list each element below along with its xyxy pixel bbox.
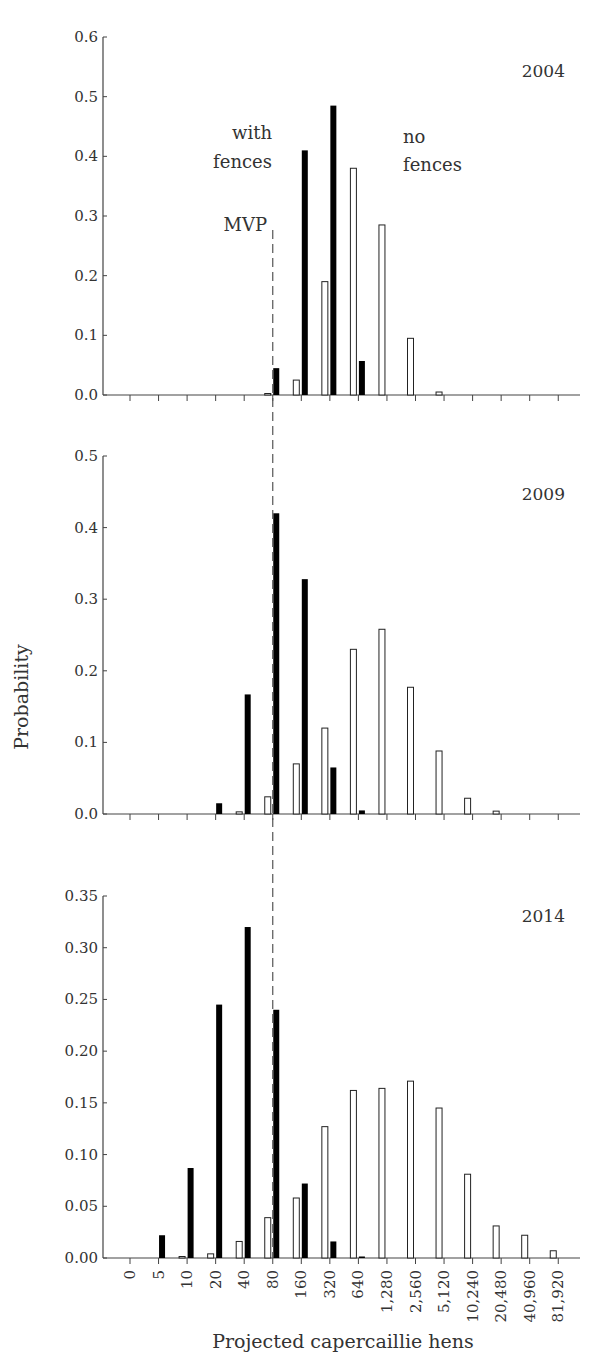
bar-with-fences [359,1257,365,1259]
y-tick-label: 0.5 [74,88,98,106]
y-tick-label: 0.5 [74,447,98,465]
no-fences-label: fences [403,154,462,175]
no-fences-label: no [403,126,425,147]
bar-with-fences [216,803,222,814]
bar-no-fences [436,392,442,395]
bar-no-fences [322,728,328,814]
bar-no-fences [493,811,499,814]
x-tick-label: 20,480 [492,1270,510,1323]
bar-no-fences [265,797,271,814]
bar-with-fences [273,1010,279,1258]
bar-no-fences [465,1174,471,1258]
bar-no-fences [493,1226,499,1258]
bar-with-fences [302,1184,308,1258]
bar-with-fences [188,1168,194,1258]
bar-no-fences [350,168,356,395]
y-tick-label: 0.3 [74,590,98,608]
x-tick-label: 40 [235,1270,253,1289]
bar-no-fences [436,1108,442,1258]
bar-with-fences [302,150,308,395]
bar-no-fences [293,1198,299,1258]
y-tick-label: 0.2 [74,662,98,680]
y-tick-label: 0.0 [74,386,98,404]
panel-year-label: 2004 [522,61,565,81]
y-tick-label: 0.15 [65,1094,98,1112]
x-tick-label: 640 [349,1270,367,1299]
y-tick-label: 0.00 [65,1249,98,1267]
bar-no-fences [550,1251,556,1258]
bar-no-fences [465,798,471,814]
bar-no-fences [522,1235,528,1258]
y-tick-label: 0.30 [65,939,98,957]
bar-no-fences [408,338,414,395]
capercaillie-probability-chart: 0.00.10.20.30.40.50.62004withfencesnofen… [0,0,597,1358]
bar-with-fences [302,579,308,814]
bar-no-fences [408,687,414,814]
y-tick-label: 0.2 [74,267,98,285]
bar-with-fences [159,1235,165,1258]
y-tick-label: 0.3 [74,207,98,225]
bar-no-fences [179,1257,185,1259]
y-tick-label: 0.4 [74,519,98,537]
y-tick-label: 0.1 [74,326,98,344]
bar-with-fences [359,810,365,814]
bar-with-fences [245,694,251,814]
bar-with-fences [330,106,336,395]
y-tick-label: 0.05 [65,1197,98,1215]
y-tick-label: 0.20 [65,1042,98,1060]
y-tick-label: 0.4 [74,147,98,165]
x-tick-label: 81,920 [549,1270,567,1323]
bar-no-fences [408,1081,414,1258]
panel-year-label: 2009 [522,484,565,504]
bar-with-fences [245,927,251,1258]
y-tick-label: 0.10 [65,1146,98,1164]
bar-no-fences [265,1218,271,1258]
x-tick-label: 320 [321,1270,339,1299]
y-axis-title: Probability [10,644,32,750]
y-tick-label: 0.1 [74,733,98,751]
bar-no-fences [322,1127,328,1258]
y-tick-label: 0.35 [65,887,98,905]
y-tick-label: 0.6 [74,28,98,46]
panel-2014: 0.000.050.100.150.200.250.300.352014 [65,887,580,1267]
panel-2004: 0.00.10.20.30.40.50.62004withfencesnofen… [74,28,580,404]
x-tick-label: 10,240 [464,1270,482,1323]
x-tick-label: 5 [150,1270,168,1280]
bar-with-fences [330,1241,336,1258]
mvp-label: MVP [223,214,267,235]
panel-2009: 0.00.10.20.30.40.52009 [74,447,580,823]
bar-no-fences [293,764,299,814]
bar-no-fences [208,1254,214,1258]
panel-year-label: 2014 [522,906,565,926]
x-tick-label: 20 [207,1270,225,1289]
x-tick-label: 80 [264,1270,282,1289]
bar-no-fences [379,225,385,395]
x-tick-label: 2,560 [407,1270,425,1313]
bar-no-fences [236,812,242,814]
bar-no-fences [379,629,385,814]
with-fences-label: fences [213,151,272,172]
y-tick-label: 0.0 [74,805,98,823]
bar-no-fences [293,380,299,395]
bar-with-fences [216,1005,222,1258]
x-tick-labels: 05102040801603206401,2802,5605,12010,240… [121,1270,567,1323]
x-tick-label: 1,280 [378,1270,396,1313]
bar-with-fences [273,368,279,395]
bar-no-fences [265,394,271,396]
y-tick-label: 0.25 [65,990,98,1008]
bar-no-fences [236,1241,242,1258]
x-axis-title: Projected capercaillie hens [212,1330,474,1352]
x-tick-label: 10 [178,1270,196,1289]
x-tick-label: 40,960 [521,1270,539,1323]
bar-no-fences [350,649,356,814]
with-fences-label: with [232,122,272,143]
bar-no-fences [379,1088,385,1258]
bar-with-fences [330,767,336,814]
bar-with-fences [359,361,365,395]
bar-with-fences [273,513,279,814]
x-tick-label: 0 [121,1270,139,1280]
chart-panels: 0.00.10.20.30.40.50.62004withfencesnofen… [65,28,580,1267]
bar-no-fences [436,751,442,814]
bar-no-fences [322,282,328,395]
bar-no-fences [350,1090,356,1258]
